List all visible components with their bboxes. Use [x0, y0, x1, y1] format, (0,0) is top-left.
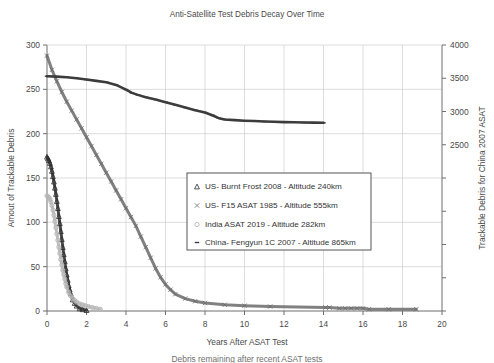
x-axis-title: Years After ASAT Test	[206, 337, 288, 347]
series-3	[45, 194, 103, 312]
legend-item-4[interactable]: China- Fengyun 1C 2007 - Altitude 865km	[195, 238, 356, 247]
legend-item-2[interactable]: US- F15 ASAT 1985 - Altitude 555km	[195, 201, 338, 210]
chart-title: Anti-Satellite Test Debris Decay Over Ti…	[170, 10, 325, 19]
y2-tick-label: 3000	[450, 107, 469, 117]
chart-container: Anti-Satellite Test Debris Decay Over Ti…	[0, 0, 494, 363]
legend-label: India ASAT 2019 - Altitude 282km	[205, 220, 326, 229]
y-tick-label: 50	[31, 262, 41, 272]
x-tick-label: 18	[398, 319, 408, 329]
x-tick-label: 12	[279, 319, 289, 329]
y-tick-label: 0	[35, 306, 40, 316]
y2-tick-label: 4000	[450, 40, 469, 50]
series-4	[45, 76, 326, 123]
y2-tick-label: 3500	[450, 73, 469, 83]
y-axis-title: Amout of Trackable Debris	[6, 129, 16, 228]
x-tick-label: 2	[84, 319, 89, 329]
y-tick-label: 300	[26, 40, 40, 50]
chart-svg: Anti-Satellite Test Debris Decay Over Ti…	[0, 0, 494, 363]
legend-label: China- Fengyun 1C 2007 - Altitude 865km	[205, 238, 356, 247]
x-tick-label: 20	[437, 319, 447, 329]
legend-item-1[interactable]: US- Burnt Frost 2008 - Altitude 240km	[195, 182, 342, 191]
x-tick-label: 8	[203, 319, 208, 329]
chart-caption: Debris remaining after recent ASAT tests	[172, 354, 323, 363]
x-tick-label: 10	[240, 319, 250, 329]
y2-tick-label: 2500	[450, 140, 469, 150]
legend-label: US- F15 ASAT 1985 - Altitude 555km	[205, 201, 338, 210]
legend-label: US- Burnt Frost 2008 - Altitude 240km	[205, 182, 342, 191]
series-line	[47, 196, 100, 309]
x-tick-label: 6	[163, 319, 168, 329]
series-line	[47, 76, 324, 123]
y2-axis-title: Trackable Debris for China 2007 ASAT	[477, 106, 487, 249]
x-tick-label: 16	[358, 319, 368, 329]
x-tick-label: 14	[319, 319, 329, 329]
x-tick-label: 4	[124, 319, 129, 329]
legend-item-3[interactable]: India ASAT 2019 - Altitude 282km	[195, 220, 326, 229]
y-tick-label: 100	[26, 217, 40, 227]
y-tick-label: 150	[26, 173, 40, 183]
y-tick-label: 250	[26, 84, 40, 94]
x-tick-label: 0	[45, 319, 50, 329]
y-tick-label: 200	[26, 129, 40, 139]
